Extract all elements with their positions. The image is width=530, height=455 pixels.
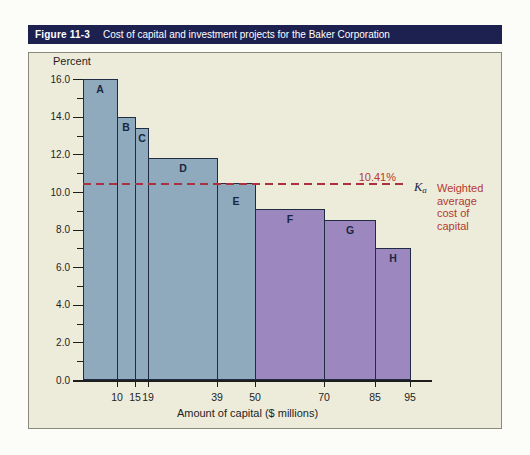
y-major-tick [73,267,83,268]
y-major-tick [73,154,83,155]
wacc-symbol: Ka [414,180,427,195]
x-tick [135,380,136,387]
wacc-dashed-line [83,183,406,185]
y-major-tick [73,342,83,343]
y-tick-label: 8.0 [38,224,70,235]
x-tick [255,380,256,387]
y-tick-label: 6.0 [38,262,70,273]
bar-label-C: C [134,132,150,144]
figure-page: Figure 11-3 Cost of capital and investme… [0,0,530,455]
bar-A [83,79,118,380]
y-major-tick [73,192,83,193]
wacc-symbol-sub: a [422,185,427,195]
x-tick [410,380,411,387]
bar-label-G: G [342,224,358,236]
bar-F [255,209,325,380]
bar-label-A: A [92,83,108,95]
y-tick-label: 0.0 [38,375,70,386]
x-tick [375,380,376,387]
x-tick [217,380,218,387]
x-tick-label: 95 [398,392,422,403]
y-tick-label: 2.0 [38,337,70,348]
bar-G [324,220,376,380]
x-axis-line [73,380,432,382]
bar-label-E: E [228,195,244,207]
x-tick [117,380,118,387]
y-tick-label: 14.0 [38,111,70,122]
bar-H [375,248,411,380]
x-axis-title: Amount of capital ($ millions) [125,407,370,419]
y-tick-label: 16.0 [38,74,70,85]
x-tick-label: 70 [312,392,336,403]
x-tick-label: 85 [363,392,387,403]
bar-label-B: B [118,121,134,133]
bar-B [117,117,136,380]
y-major-tick [73,79,83,80]
y-tick-label: 10.0 [38,187,70,198]
x-tick-label: 50 [243,392,267,403]
y-major-tick [73,117,83,118]
bar-C [135,128,149,380]
wacc-annotation: Weighted average cost of capital [437,182,483,232]
y-major-tick [73,305,83,306]
wacc-value-label: 10.41% [338,171,396,183]
bar-label-H: H [385,252,401,264]
y-tick-label: 4.0 [38,299,70,310]
bar-E [217,183,256,380]
x-tick-label: 39 [205,392,229,403]
y-tick-label: 12.0 [38,149,70,160]
x-tick [324,380,325,387]
x-tick [148,380,149,387]
bar-label-D: D [175,162,191,174]
y-major-tick [73,230,83,231]
bar-label-F: F [282,213,298,225]
x-tick-label: 19 [136,392,160,403]
bar-D [148,158,218,380]
